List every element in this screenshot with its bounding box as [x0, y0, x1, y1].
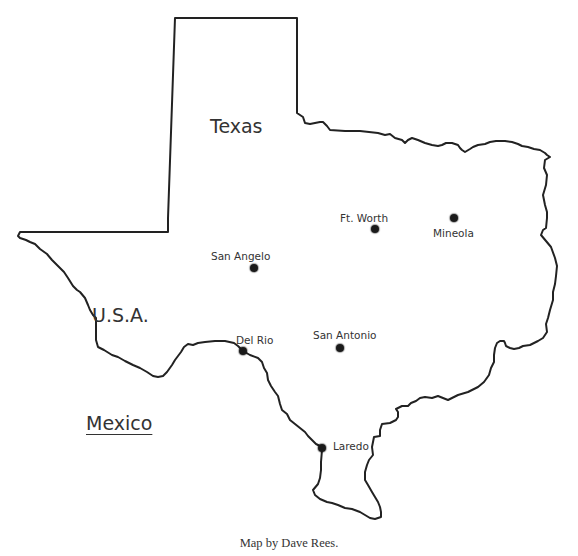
city-marker-san-angelo [250, 264, 258, 272]
city-marker-mineola [450, 214, 458, 222]
city-label-del-rio: Del Rio [236, 335, 273, 346]
city-label-mineola: Mineola [433, 228, 474, 239]
city-marker-laredo [318, 444, 326, 452]
texas-map: Texas U.S.A. Mexico Ft. Worth Mineola Sa… [0, 0, 578, 556]
state-label-texas: Texas [210, 117, 263, 136]
city-label-laredo: Laredo [333, 441, 369, 452]
city-label-san-angelo: San Angelo [211, 251, 270, 262]
city-label-ft-worth: Ft. Worth [340, 213, 388, 224]
map-credit-caption: Map by Dave Rees. [0, 536, 578, 551]
city-marker-del-rio [239, 347, 247, 355]
region-label-mexico: Mexico [86, 414, 152, 433]
city-marker-ft-worth [371, 225, 379, 233]
city-marker-san-antonio [336, 344, 344, 352]
region-label-usa: U.S.A. [92, 306, 149, 325]
texas-outline [0, 0, 578, 556]
city-label-san-antonio: San Antonio [313, 330, 376, 341]
